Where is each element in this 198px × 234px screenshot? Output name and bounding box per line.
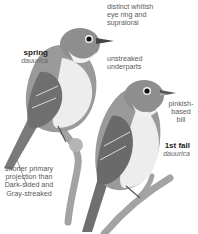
- annotation-eye-ring: distinct whitish eye ring and supraloral: [107, 3, 153, 28]
- upper-branch-illustration: [62, 130, 83, 222]
- first-fall-age-label: 1st fall: [150, 141, 190, 150]
- annotation-line: bill: [164, 116, 198, 124]
- annotation-line: supraloral: [107, 19, 153, 27]
- annotation-bill: pinkish- based bill: [164, 100, 198, 125]
- annotation-primary-projection: shorter primary projection than Dark-sid…: [2, 165, 56, 198]
- field-guide-plate: distinct whitish eye ring and supraloral…: [0, 0, 198, 234]
- annotation-line: Gray-streaked: [2, 190, 56, 198]
- spring-age-label: spring: [18, 48, 48, 57]
- first-fall-subspecies-label: dauurica: [150, 150, 190, 158]
- spring-subspecies-label: dauurica: [10, 57, 48, 65]
- annotation-line: underparts: [107, 63, 143, 71]
- annotation-underparts: unstreaked underparts: [107, 55, 143, 71]
